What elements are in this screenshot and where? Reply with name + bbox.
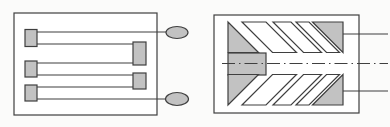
terminal-top (166, 27, 188, 39)
herringbone-electrode-pattern (214, 15, 388, 113)
turn-pad-left-3 (25, 85, 37, 101)
terminal-bottom (166, 93, 189, 106)
turn-pad-left-1 (25, 30, 37, 47)
turn-pad-right-2 (133, 73, 146, 89)
schematic-figure (0, 0, 390, 127)
turn-pad-left-2 (25, 61, 37, 77)
figure-canvas (0, 0, 390, 127)
meander-electrode-pattern (14, 13, 189, 115)
turn-pad-right-1 (133, 42, 146, 65)
